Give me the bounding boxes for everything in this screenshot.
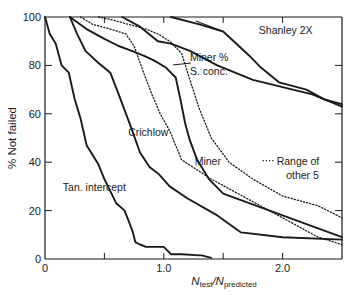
x-title-sub-test: test (199, 280, 213, 289)
y-tick-label: 80 (29, 59, 41, 71)
x-title-sub-predicted: predicted (224, 280, 257, 289)
annotation-label: Shanley 2X (259, 24, 313, 36)
y-tick-label: 60 (29, 108, 41, 120)
annotation-label: other 5 (286, 169, 319, 181)
annotation-label: Miner (195, 155, 222, 167)
x-axis-title: Ntest/Npredicted (191, 275, 257, 289)
y-tick-label: 100 (23, 11, 41, 23)
y-tick-label: 40 (29, 156, 41, 168)
annotation-label: Crichlow (128, 126, 169, 138)
y-axis-title: % Not failed (6, 107, 18, 169)
x-title-slash-n: /N (211, 275, 224, 287)
survival-chart: 01.02.0020406080100 Shanley 2XMiner %S. … (0, 0, 356, 295)
x-tick-label: 2.0 (275, 262, 290, 274)
x-tick-label: 1.0 (156, 262, 171, 274)
series-annotations: Shanley 2XMiner %S. conc.CrichlowMinerRa… (63, 24, 320, 193)
axis-tick-labels: 01.02.0020406080100 (23, 11, 291, 274)
annotation-label: Range of (277, 155, 320, 167)
x-tick-label: 0 (42, 262, 48, 274)
y-tick-label: 0 (35, 253, 41, 265)
annotation-label: Tan. intercept (63, 181, 126, 193)
annotation-label: Miner % (190, 51, 229, 63)
annotation-label: S. conc. (190, 65, 228, 77)
y-tick-label: 20 (29, 205, 41, 217)
